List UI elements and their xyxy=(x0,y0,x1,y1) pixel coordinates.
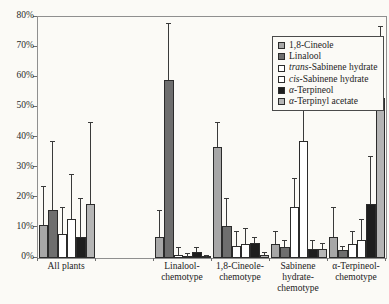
legend-label: α-Terpinyl acetate xyxy=(289,96,358,107)
x-category-label: All plants xyxy=(35,261,97,272)
error-whisker xyxy=(43,186,44,225)
category-group xyxy=(154,17,212,258)
bar xyxy=(357,240,366,258)
error-whisker-cap xyxy=(204,255,209,256)
bar-slot xyxy=(174,17,183,258)
bar xyxy=(318,249,327,258)
error-whisker xyxy=(52,141,53,210)
error-whisker-cap xyxy=(320,243,325,244)
y-tick-label: 80% xyxy=(4,10,34,20)
bar-slot xyxy=(76,17,85,258)
error-whisker-cap xyxy=(310,240,315,241)
y-tick-label: 10% xyxy=(4,221,34,231)
legend-label: α-Terpineol xyxy=(289,85,333,96)
error-whisker xyxy=(370,156,371,204)
error-whisker-cap xyxy=(166,23,171,24)
bar-slot xyxy=(202,17,211,258)
x-category-label-line: chemotype xyxy=(267,283,329,294)
error-whisker-cap xyxy=(50,141,55,142)
legend-item: α-Terpineol xyxy=(278,85,377,96)
x-category-label: α-Terpineol-chemotype xyxy=(325,261,387,283)
error-whisker-cap xyxy=(69,174,74,175)
error-whisker-cap xyxy=(378,26,383,27)
x-category-label: Linalool-chemotype xyxy=(151,261,213,283)
bar xyxy=(58,234,67,258)
bar xyxy=(48,210,57,258)
error-whisker xyxy=(352,231,353,245)
error-whisker-cap xyxy=(157,210,162,211)
bar-slot xyxy=(48,17,57,258)
bar xyxy=(290,207,299,258)
error-whisker xyxy=(159,210,160,237)
x-category-label-line: α-Terpineol- xyxy=(325,261,387,272)
bar xyxy=(348,244,357,258)
y-tick-label: 70% xyxy=(4,40,34,50)
y-tick-label: 20% xyxy=(4,191,34,201)
legend-item: 1,8-Cineole xyxy=(278,40,377,51)
bar xyxy=(174,255,183,258)
legend-label: 1,8-Cineole xyxy=(289,40,334,51)
error-whisker-cap xyxy=(292,178,297,179)
category-group xyxy=(96,17,154,258)
error-whisker xyxy=(312,240,313,249)
category-group xyxy=(212,17,270,258)
legend-item: α-Terpinyl acetate xyxy=(278,96,377,107)
bar-slot xyxy=(260,17,269,258)
x-category-label-line: chemotype xyxy=(151,272,213,283)
error-whisker-cap xyxy=(60,207,65,208)
bar-slot xyxy=(241,17,250,258)
bar xyxy=(67,219,76,258)
error-whisker-cap xyxy=(340,246,345,247)
bar xyxy=(250,243,259,258)
legend-item: trans-Sabinene hydrate xyxy=(278,62,377,73)
error-whisker xyxy=(333,207,334,237)
bar-slot xyxy=(125,17,134,258)
bar xyxy=(329,237,338,258)
error-whisker xyxy=(71,174,72,219)
y-tick-label: 0% xyxy=(4,251,34,261)
legend-label: Linalool xyxy=(289,51,321,62)
bar xyxy=(271,244,280,258)
error-whisker-cap xyxy=(88,122,93,123)
error-whisker xyxy=(168,23,169,80)
error-whisker xyxy=(245,228,246,245)
bar-slot xyxy=(39,17,48,258)
x-category-label: 1,8-Cineole-chemotype xyxy=(209,261,271,283)
bar xyxy=(376,98,385,258)
bar-slot xyxy=(106,17,115,258)
error-whisker-cap xyxy=(368,156,373,157)
legend-swatch xyxy=(278,87,285,94)
legend-swatch xyxy=(278,53,285,60)
error-whisker-cap xyxy=(215,122,220,123)
error-whisker xyxy=(275,231,276,245)
error-whisker xyxy=(361,219,362,240)
bar xyxy=(308,249,317,258)
error-whisker-cap xyxy=(262,252,267,253)
bar xyxy=(86,204,95,258)
bar-slot xyxy=(232,17,241,258)
error-whisker-cap xyxy=(282,240,287,241)
bar-slot xyxy=(164,17,173,258)
x-category-label-line: chemotype xyxy=(209,272,271,283)
bar xyxy=(192,252,201,258)
bar-slot xyxy=(213,17,222,258)
error-whisker xyxy=(217,122,218,146)
error-whisker-cap xyxy=(224,198,229,199)
bar xyxy=(76,237,85,258)
error-whisker-cap xyxy=(234,231,239,232)
error-whisker xyxy=(294,178,295,207)
error-whisker-cap xyxy=(243,228,248,229)
error-whisker-cap xyxy=(185,253,190,254)
bar xyxy=(299,141,308,258)
bar xyxy=(155,237,164,258)
legend-swatch xyxy=(278,65,285,72)
error-whisker-cap xyxy=(194,247,199,248)
error-whisker xyxy=(226,198,227,227)
y-tick-label: 60% xyxy=(4,70,34,80)
bar-slot xyxy=(222,17,231,258)
x-category-label: Sabinenehydrate-chemotype xyxy=(267,261,329,294)
error-whisker-cap xyxy=(273,231,278,232)
bar xyxy=(241,244,250,258)
x-category-label-line: chemotype xyxy=(325,272,387,283)
category-group xyxy=(38,17,96,258)
